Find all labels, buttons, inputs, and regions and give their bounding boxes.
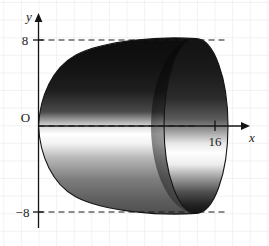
x-tick-label-16: 16 [209,134,223,149]
figure-canvas: y x O 8 −8 16 [0,0,269,246]
paraboloid-figure: y x O 8 −8 16 [0,0,269,246]
y-tick-label-8: 8 [22,33,29,48]
y-axis-label: y [24,9,32,24]
origin-label: O [21,110,30,125]
x-axis-label: x [248,130,255,145]
y-tick-label-minus8: −8 [16,205,30,220]
